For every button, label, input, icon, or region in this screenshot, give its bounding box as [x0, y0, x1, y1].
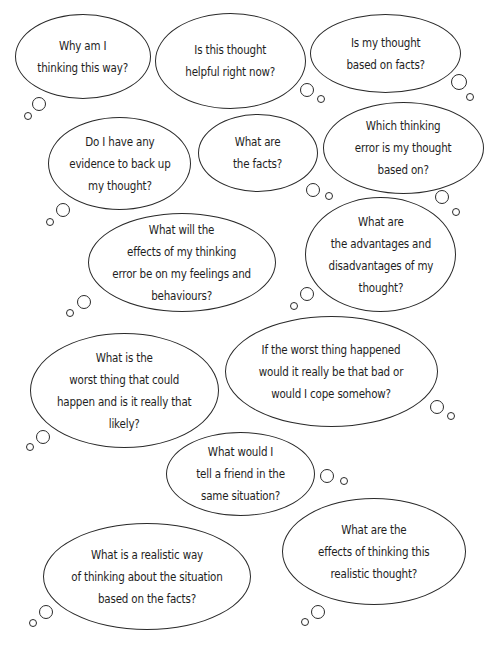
- bubble-line: Why am I: [38, 35, 129, 57]
- bubble-line: What are: [233, 131, 282, 153]
- thought-bubble-evidence: Do I have any evidence to back up my tho…: [48, 117, 191, 210]
- thought-bubble-based-on-facts: Is my thought based on facts?: [310, 14, 461, 93]
- bubble-text: What is the worst thing that could happe…: [57, 347, 192, 435]
- thought-tail-circle-icon: [430, 400, 444, 414]
- thought-bubble-why-am-i-thinking: Why am I thinking this way?: [15, 14, 151, 99]
- bubble-text: What would I tell a friend in the same s…: [196, 441, 285, 507]
- bubble-line: Do I have any: [69, 131, 170, 153]
- bubble-text: What are the facts?: [233, 131, 282, 175]
- bubble-line: If the worst thing happened: [259, 339, 404, 361]
- thought-bubble-realistic-way: What is a realistic way of thinking abou…: [43, 523, 251, 630]
- thought-tail-circle-icon: [466, 93, 474, 101]
- bubble-line: thinking this way?: [38, 57, 129, 79]
- bubble-line: error be on my feelings and: [113, 263, 252, 285]
- bubble-text: Which thinking error is my thought based…: [355, 115, 452, 181]
- thought-tail-circle-icon: [317, 95, 325, 103]
- bubble-line: happen and is it really that: [57, 391, 192, 413]
- bubble-text: What are the advantages and disadvantage…: [328, 211, 433, 299]
- bubble-line: likely?: [57, 413, 192, 435]
- bubble-line: What is a realistic way: [71, 544, 222, 566]
- thought-tail-circle-icon: [300, 83, 314, 97]
- thought-tail-circle-icon: [32, 97, 46, 111]
- bubble-line: What would I: [196, 441, 285, 463]
- bubble-text: What is a realistic way of thinking abou…: [71, 544, 222, 610]
- thought-bubble-is-this-thought-helpful: Is this thought helpful right now?: [155, 13, 306, 109]
- thought-tail-circle-icon: [306, 183, 320, 197]
- thought-tail-circle-icon: [300, 287, 314, 301]
- bubble-line: What are the: [318, 519, 429, 541]
- thought-bubble-worst-thing: What is the worst thing that could happe…: [30, 333, 219, 448]
- bubble-line: helpful right now?: [186, 61, 276, 83]
- bubble-line: based on facts?: [346, 54, 425, 76]
- bubble-line: error is my thought: [355, 137, 452, 159]
- thought-tail-circle-icon: [24, 112, 32, 120]
- thought-tail-circle-icon: [311, 605, 325, 619]
- bubble-line: of thinking about the situation: [71, 566, 222, 588]
- bubble-line: tell a friend in the: [196, 463, 285, 485]
- bubble-line: the advantages and: [328, 233, 433, 255]
- thought-bubble-thinking-error: Which thinking error is my thought based…: [323, 102, 484, 194]
- thought-tail-circle-icon: [452, 208, 460, 216]
- bubble-line: thought?: [328, 277, 433, 299]
- bubble-text: What will the effects of my thinking err…: [113, 219, 252, 307]
- thought-tail-circle-icon: [29, 619, 37, 627]
- bubble-line: realistic thought?: [318, 563, 429, 585]
- thought-bubble-cope-somehow: If the worst thing happened would it rea…: [225, 316, 438, 427]
- bubble-line: Which thinking: [355, 115, 452, 137]
- thought-tail-circle-icon: [451, 74, 467, 90]
- bubble-line: What is the: [57, 347, 192, 369]
- bubble-line: What are: [328, 211, 433, 233]
- bubble-line: would I cope somehow?: [259, 383, 404, 405]
- bubble-text: If the worst thing happened would it rea…: [259, 339, 404, 405]
- thought-bubble-advantages: What are the advantages and disadvantage…: [305, 197, 456, 312]
- bubble-text: Is this thought helpful right now?: [186, 39, 276, 83]
- thought-tail-circle-icon: [435, 190, 449, 204]
- bubble-line: worst thing that could: [57, 369, 192, 391]
- thought-tail-circle-icon: [39, 605, 53, 619]
- thought-tail-circle-icon: [447, 412, 455, 420]
- thought-bubble-effects-of-error: What will the effects of my thinking err…: [88, 213, 276, 312]
- bubble-line: Is this thought: [186, 39, 276, 61]
- bubble-text: Do I have any evidence to back up my tho…: [69, 131, 170, 197]
- thought-bubble-what-are-the-facts: What are the facts?: [198, 114, 318, 192]
- bubble-line: effects of thinking this: [318, 541, 429, 563]
- bubble-line: the facts?: [233, 153, 282, 175]
- thought-bubbles-worksheet: Why am I thinking this way? Is this thou…: [0, 0, 496, 651]
- bubble-text: Is my thought based on facts?: [346, 32, 425, 76]
- bubble-line: effects of my thinking: [113, 241, 252, 263]
- bubble-line: Is my thought: [346, 32, 425, 54]
- thought-tail-circle-icon: [66, 309, 74, 317]
- bubble-line: same situation?: [196, 485, 285, 507]
- thought-tail-circle-icon: [301, 618, 309, 626]
- thought-bubble-realistic-effects: What are the effects of thinking this re…: [282, 498, 466, 605]
- bubble-line: would it really be that bad or: [259, 361, 404, 383]
- bubble-line: my thought?: [69, 175, 170, 197]
- bubble-text: What are the effects of thinking this re…: [318, 519, 429, 585]
- thought-tail-circle-icon: [320, 469, 334, 483]
- thought-bubble-tell-a-friend: What would I tell a friend in the same s…: [166, 432, 315, 516]
- thought-tail-circle-icon: [26, 443, 34, 451]
- bubble-line: based on the facts?: [71, 588, 222, 610]
- thought-tail-circle-icon: [325, 192, 333, 200]
- bubble-line: disadvantages of my: [328, 255, 433, 277]
- bubble-text: Why am I thinking this way?: [38, 35, 129, 79]
- bubble-line: based on?: [355, 159, 452, 181]
- thought-tail-circle-icon: [46, 218, 54, 226]
- thought-tail-circle-icon: [77, 295, 91, 309]
- bubble-line: What will the: [113, 219, 252, 241]
- thought-tail-circle-icon: [340, 477, 348, 485]
- thought-tail-circle-icon: [56, 203, 70, 217]
- thought-tail-circle-icon: [36, 430, 50, 444]
- thought-tail-circle-icon: [290, 302, 298, 310]
- bubble-line: behaviours?: [113, 285, 252, 307]
- bubble-line: evidence to back up: [69, 153, 170, 175]
